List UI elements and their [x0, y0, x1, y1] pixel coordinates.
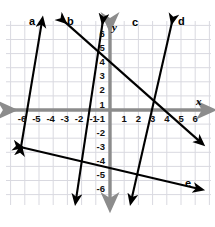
- y-axis-label: y: [112, 22, 117, 33]
- x-tick-label: 1: [122, 114, 127, 124]
- x-tick-label: -3: [61, 114, 69, 124]
- line-label-b: b: [67, 16, 74, 27]
- line-label-a: a: [29, 16, 35, 27]
- y-tick-label: -1: [97, 114, 105, 124]
- line-label-c: c: [132, 17, 138, 28]
- y-tick-label: 5: [100, 43, 105, 53]
- line-label-d: d: [178, 16, 185, 27]
- x-tick-label: 3: [150, 114, 155, 124]
- y-tick-label: -5: [97, 170, 105, 180]
- y-tick-label: 4: [100, 57, 105, 67]
- x-tick-label: -5: [32, 114, 40, 124]
- x-tick-label: 2: [136, 114, 141, 124]
- y-tick-label: -4: [97, 156, 105, 166]
- y-tick-label: 6: [100, 29, 105, 39]
- y-tick-label: -3: [97, 142, 105, 152]
- x-tick-label: -2: [75, 114, 83, 124]
- line-label-e: e: [185, 178, 191, 189]
- coordinate-plane-figure: -6 -5 -4 -3 -2 -1 1 2 3 4 5 6 6 5 4 3 2 …: [0, 0, 215, 227]
- y-tick-label: -2: [97, 128, 105, 138]
- x-tick-label: 4: [164, 114, 169, 124]
- y-tick-label: 2: [100, 85, 105, 95]
- x-tick-label: -4: [46, 114, 54, 124]
- y-tick-label: 1: [100, 100, 105, 110]
- x-axis-label: x: [196, 96, 202, 107]
- x-tick-label: 6: [193, 114, 198, 124]
- y-tick-label: 3: [100, 71, 105, 81]
- y-tick-label: -6: [97, 184, 105, 194]
- x-tick-label: -6: [18, 114, 26, 124]
- x-tick-label: 5: [178, 114, 183, 124]
